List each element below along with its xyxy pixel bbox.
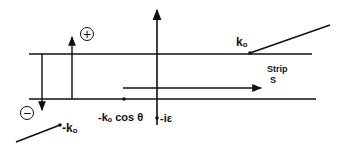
k0-branch-cut	[250, 25, 330, 53]
plus-circle-label: +	[80, 27, 94, 41]
complex-plane-diagram	[0, 0, 347, 148]
kcos-label-base: -k	[98, 111, 108, 123]
strip-label: Strip S	[267, 65, 288, 85]
k0-label: ko	[236, 36, 247, 49]
neg-k0-label-sub: o	[73, 126, 78, 135]
neg-k0-branch-cut	[16, 125, 60, 142]
neg-k0-label: -ko	[62, 122, 77, 135]
kcos-label-suffix: cos θ	[112, 111, 143, 123]
strip-label-line2: S	[270, 76, 288, 85]
strip-label-line1: Strip	[267, 65, 288, 74]
neg-i-epsilon-label: -iε	[160, 113, 172, 124]
kcos-label: -ko cos θ	[98, 112, 143, 124]
minus-circle-label: −	[20, 106, 34, 120]
k0-label-base: k	[236, 35, 243, 49]
neg-i-epsilon-point	[155, 116, 159, 120]
neg-k0-label-base: -k	[62, 121, 73, 135]
kcos-point	[122, 97, 126, 101]
k0-label-sub: o	[243, 40, 248, 49]
